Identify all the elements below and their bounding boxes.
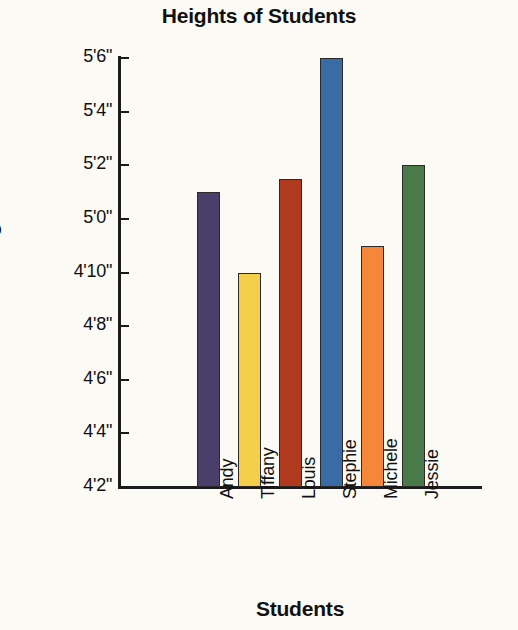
y-axis-tick-label: 4'2" bbox=[40, 475, 112, 496]
y-axis-tick-label: 5'0" bbox=[40, 207, 112, 228]
x-axis-title: Students bbox=[118, 597, 482, 621]
bar-jessie bbox=[402, 165, 425, 487]
x-axis-label-andy: Andy bbox=[217, 459, 238, 499]
x-axis-label-michele: Michele bbox=[381, 438, 402, 499]
y-axis-tick bbox=[118, 486, 129, 488]
bar-andy bbox=[197, 192, 220, 487]
y-axis-tick bbox=[118, 57, 129, 59]
y-axis-tick-label: 4'4" bbox=[40, 421, 112, 442]
bar-stephie bbox=[320, 58, 343, 487]
y-axis-title: Heights bbox=[0, 191, 2, 270]
y-axis-tick bbox=[118, 111, 129, 113]
x-axis-label-louis: Louis bbox=[299, 457, 320, 499]
x-axis-label-tiffany: Tiffany bbox=[258, 447, 279, 499]
y-axis-tick bbox=[118, 218, 129, 220]
y-axis-tick-label: 5'4" bbox=[40, 100, 112, 121]
x-axis-label-stephie: Stephie bbox=[340, 439, 361, 499]
y-axis-tick-label: 4'8" bbox=[40, 314, 112, 335]
y-axis-tick-label: 5'2" bbox=[40, 153, 112, 174]
y-axis-tick bbox=[118, 325, 129, 327]
y-axis-tick bbox=[118, 379, 129, 381]
bar-chart: Heights of Students Heights Students 5'6… bbox=[0, 0, 518, 630]
y-axis-tick bbox=[118, 432, 129, 434]
bar-louis bbox=[279, 179, 302, 487]
x-axis-label-jessie: Jessie bbox=[422, 449, 443, 499]
y-axis-tick-label: 5'6" bbox=[40, 46, 112, 67]
y-axis-tick-label: 4'6" bbox=[40, 368, 112, 389]
y-axis-tick bbox=[118, 272, 129, 274]
y-axis-tick bbox=[118, 164, 129, 166]
y-axis-tick-label: 4'10" bbox=[40, 261, 112, 282]
y-axis-tick-labels: 5'6"5'4"5'2"5'0"4'10"4'8"4'6"4'4"4'2" bbox=[38, 0, 112, 630]
